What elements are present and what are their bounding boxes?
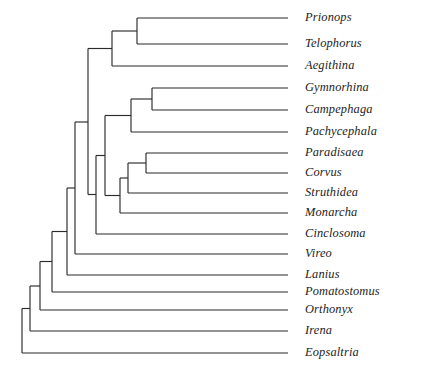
taxon-label-prionops: Prionops <box>305 11 352 23</box>
taxon-label-aegithina: Aegithina <box>305 59 355 71</box>
taxon-label-monarcha: Monarcha <box>305 206 357 218</box>
taxon-label-pomatostomus: Pomatostomus <box>305 285 380 297</box>
taxon-label-struthidea: Struthidea <box>305 186 358 198</box>
taxon-label-gymnorhina: Gymnorhina <box>305 81 369 93</box>
taxon-label-paradisaea: Paradisaea <box>305 146 364 158</box>
phylogenetic-tree-figure: PrionopsTelophorusAegithinaGymnorhinaCam… <box>0 0 426 378</box>
taxon-label-pachycephala: Pachycephala <box>305 125 377 137</box>
taxon-label-cinclosoma: Cinclosoma <box>305 227 366 239</box>
taxon-label-campephaga: Campephaga <box>305 103 373 115</box>
taxon-label-corvus: Corvus <box>305 166 342 178</box>
branch-layer <box>22 18 288 353</box>
cladogram-svg <box>0 0 426 378</box>
taxon-label-eopsaltria: Eopsaltria <box>305 346 359 358</box>
taxon-label-lanius: Lanius <box>305 268 340 280</box>
taxon-label-orthonyx: Orthonyx <box>305 303 353 315</box>
taxon-label-vireo: Vireo <box>305 247 332 259</box>
taxon-label-irena: Irena <box>305 324 332 336</box>
taxon-label-telophorus: Telophorus <box>305 37 362 49</box>
